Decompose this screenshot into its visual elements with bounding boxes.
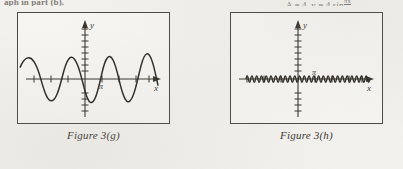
header-right-fraction: πx6 <box>344 0 351 6</box>
plot-frame-3h: y x π <box>230 12 383 124</box>
x-axis-label-3g: x <box>153 83 158 93</box>
figure-caption-3g: Figure 3(g) <box>17 129 170 141</box>
plot-3h: y x π <box>231 13 382 123</box>
curve-3h <box>246 76 370 82</box>
header-text-fragment-left: aph in part (b). <box>4 0 64 6</box>
y-axis-label-3g: y <box>89 20 94 30</box>
scanned-page: aph in part (b). A = 4, y = 4 sinπx6 <box>0 0 403 169</box>
header-text-fragment-right: A = 4, y = 4 sinπx6 <box>286 0 351 6</box>
x-tick-label-pi-3h: π <box>312 68 317 77</box>
fraction-numerator: πx <box>344 0 351 4</box>
figure-3h: y x π Figure 3(h) <box>230 12 383 141</box>
x-tick-label-pi-3g: π <box>99 82 104 91</box>
x-axis-label-3h: x <box>366 83 371 93</box>
plot-frame-3g: y x π <box>17 12 170 124</box>
figure-caption-3h: Figure 3(h) <box>230 129 383 141</box>
curve-3g <box>20 54 158 103</box>
y-axis-label-3h: y <box>302 20 307 30</box>
x-axis-3g <box>26 76 161 82</box>
header-right-prefix: A = 4, y = 4 sin <box>286 0 344 6</box>
figure-3g: y x π Figure 3(g) <box>17 12 170 141</box>
plot-3g: y x π <box>18 13 169 123</box>
